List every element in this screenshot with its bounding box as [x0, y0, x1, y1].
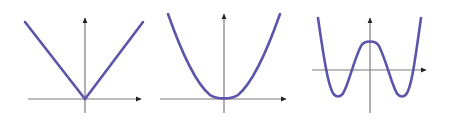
graph-panel-quartic	[312, 18, 426, 113]
graphs-canvas	[0, 0, 450, 120]
graph-panel-absolute-value	[25, 18, 143, 113]
graph-panel-parabola	[160, 14, 286, 113]
curve-absolute-value	[25, 22, 143, 99]
polynomial-graphs-figure	[0, 0, 450, 120]
